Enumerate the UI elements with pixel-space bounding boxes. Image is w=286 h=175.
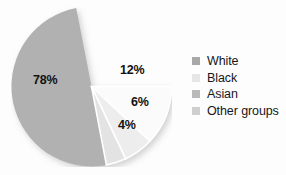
legend-swatch-icon-other-groups <box>192 107 200 115</box>
legend-item-asian: Asian <box>192 86 286 103</box>
slice-value-label-asian: 6% <box>131 95 149 109</box>
slice-value-label-black: 12% <box>120 63 144 77</box>
slice-value-label-white: 78% <box>33 73 57 87</box>
legend-item-black: Black <box>192 70 286 87</box>
slice-value-label-other-groups: 4% <box>118 118 136 132</box>
legend-swatch-icon-asian <box>192 90 200 98</box>
legend-label-white: White <box>207 53 238 70</box>
pie-slices-group <box>12 8 172 167</box>
legend-item-other-groups: Other groups <box>192 103 286 120</box>
legend-swatch-icon-white <box>192 57 200 65</box>
legend-item-white: White <box>192 53 286 70</box>
chart-legend: White Black Asian Other groups <box>192 53 286 119</box>
legend-swatch-icon-black <box>192 74 200 82</box>
pie-chart-figure: 78% 12% 6% 4% White Black Asian Other gr… <box>0 0 286 175</box>
legend-label-black: Black <box>207 70 237 87</box>
legend-label-other-groups: Other groups <box>207 103 279 120</box>
legend-label-asian: Asian <box>207 86 238 103</box>
